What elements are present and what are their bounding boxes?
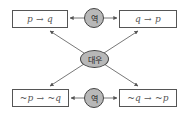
inverse-proposition-box: ~p → ~q — [12, 89, 69, 107]
inverse-proposition-label: ~p → ~q — [20, 93, 61, 103]
converse-relation-node-bottom: 역 — [84, 88, 104, 108]
original-proposition-label: p → q — [27, 14, 53, 24]
contrapositive-proposition-label: ~q → ~p — [127, 93, 168, 103]
converse-proposition-label: q → p — [135, 14, 161, 24]
converse-relation-label-bottom: 역 — [91, 93, 98, 104]
original-proposition-box: p → q — [12, 10, 68, 28]
converse-relation-node-top: 역 — [84, 8, 104, 28]
converse-relation-label-top: 역 — [91, 13, 98, 24]
logic-relations-diagram: p → q q → p ~p → ~q ~q → ~p 역 역 대우 — [0, 0, 189, 114]
arrow-diag-top-right — [104, 31, 138, 53]
converse-proposition-box: q → p — [119, 10, 177, 28]
arrow-diag-bottom-right — [104, 64, 138, 86]
arrow-diag-top-left — [50, 31, 84, 53]
contrapositive-relation-label: 대우 — [88, 54, 102, 65]
contrapositive-proposition-box: ~q → ~p — [119, 89, 177, 107]
contrapositive-relation-node: 대우 — [80, 50, 109, 68]
arrow-diag-bottom-left — [50, 64, 84, 86]
